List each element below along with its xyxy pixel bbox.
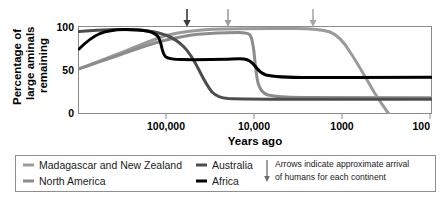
x-tick-100: 100 [412,120,430,132]
legend-arrow-marker-icon [264,160,270,182]
legend-item-madagascar-and-new-zealand[interactable]: Madagascar and New Zealand [23,159,182,171]
series-line-madagascar-and-new-zealand [79,28,394,121]
y-axis-title-line2: large aminals [24,26,36,100]
y-tick-100: 100 [56,21,74,33]
legend-label-madagascar-and-new-zealand: Madagascar and New Zealand [39,159,182,171]
arrival-arrow-north-america [225,9,232,27]
legend-item-australia[interactable]: Australia [196,159,253,171]
y-axis-title-line3: remaining [37,38,49,93]
legend-entries: Madagascar and New Zealand North America… [23,159,253,187]
x-tick-100000: 100,000 [147,120,185,132]
series-group [79,28,431,121]
x-tick-1000: 1000 [330,120,354,132]
legend-label-africa: Africa [212,175,239,187]
legend-item-north-america[interactable]: North America [23,175,106,187]
x-axis-tick-labels: 100,000 10,000 1000 100 [147,120,430,132]
arrival-arrow-australia [183,9,190,27]
legend-arrow-note: Arrows indicate approximate arrival of h… [264,159,409,182]
y-tick-50: 50 [62,64,74,76]
arrival-arrow-madagascar [310,9,317,27]
arrival-arrows [183,9,316,27]
chart-figure: Percentage of large aminals remaining 10… [0,0,448,197]
legend-label-north-america: North America [39,175,106,187]
x-tick-10000: 10,000 [238,120,270,132]
y-tick-0: 0 [68,107,74,119]
chart-svg: Percentage of large aminals remaining 10… [0,0,448,197]
legend-note-line1: Arrows indicate approximate arrival [275,159,409,169]
y-axis-tick-labels: 100 50 0 [56,21,74,119]
legend-item-africa[interactable]: Africa [196,175,239,187]
x-axis-title: Years ago [228,135,282,147]
y-axis-title-line1: Percentage of [11,29,23,105]
legend-label-australia: Australia [212,159,253,171]
y-axis-title: Percentage of large aminals remaining [11,26,49,105]
legend-note-line2: of humans for each continent [275,172,386,182]
